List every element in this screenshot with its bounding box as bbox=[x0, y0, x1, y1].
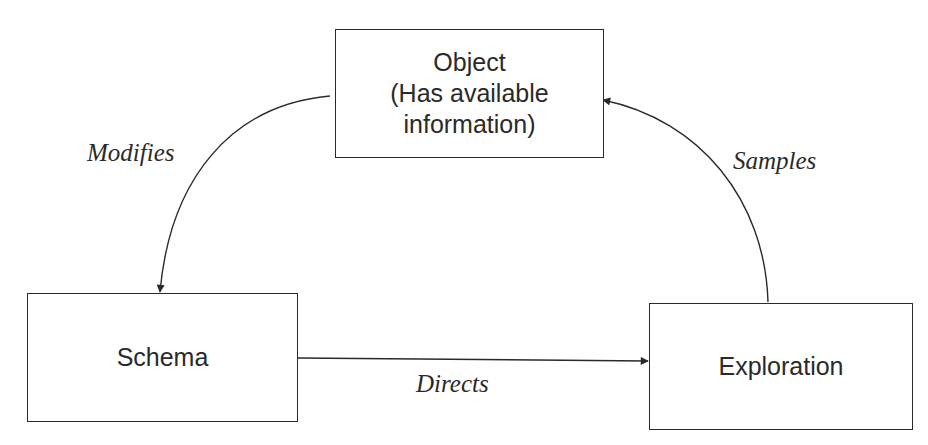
object-title: Object bbox=[390, 47, 548, 78]
schema-node: Schema bbox=[27, 293, 298, 422]
schema-node-label: Schema bbox=[117, 342, 209, 373]
perceptual-cycle-diagram: Object (Has available information) Schem… bbox=[0, 0, 928, 445]
directs-arrow bbox=[298, 358, 648, 361]
object-subtitle-line2: information) bbox=[390, 109, 548, 140]
directs-label: Directs bbox=[416, 370, 489, 398]
samples-label: Samples bbox=[733, 147, 816, 175]
object-node: Object (Has available information) bbox=[335, 29, 604, 158]
exploration-node-label: Exploration bbox=[718, 351, 843, 382]
exploration-node: Exploration bbox=[649, 303, 913, 430]
modifies-arrow bbox=[160, 96, 330, 292]
modifies-label: Modifies bbox=[87, 139, 175, 167]
object-subtitle-line1: (Has available bbox=[390, 78, 548, 109]
samples-arrow bbox=[603, 100, 768, 302]
object-node-label: Object (Has available information) bbox=[390, 47, 548, 140]
